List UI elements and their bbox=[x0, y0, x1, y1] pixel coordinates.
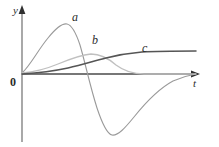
curve-label-c: c bbox=[142, 42, 147, 54]
curve-label-a: a bbox=[72, 11, 78, 23]
curve-a bbox=[22, 24, 196, 135]
plot-canvas bbox=[0, 0, 219, 147]
curve-c bbox=[22, 51, 196, 74]
y-axis-arrow-icon bbox=[19, 5, 26, 14]
origin-label: 0 bbox=[10, 76, 16, 88]
y-axis-label: y bbox=[13, 5, 18, 16]
curve-figure: y t 0 a b c bbox=[0, 0, 219, 147]
curve-label-b: b bbox=[92, 34, 98, 46]
x-axis-label: t bbox=[193, 78, 196, 89]
